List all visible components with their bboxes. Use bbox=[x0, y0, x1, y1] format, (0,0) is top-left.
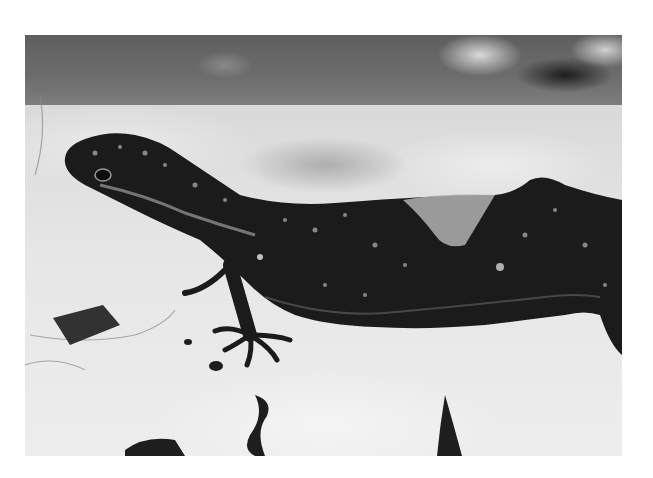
gecko-eye bbox=[95, 169, 111, 181]
photo-frame bbox=[25, 35, 622, 456]
gecko-scene bbox=[25, 35, 622, 456]
gecko-body-silhouette bbox=[65, 133, 622, 355]
